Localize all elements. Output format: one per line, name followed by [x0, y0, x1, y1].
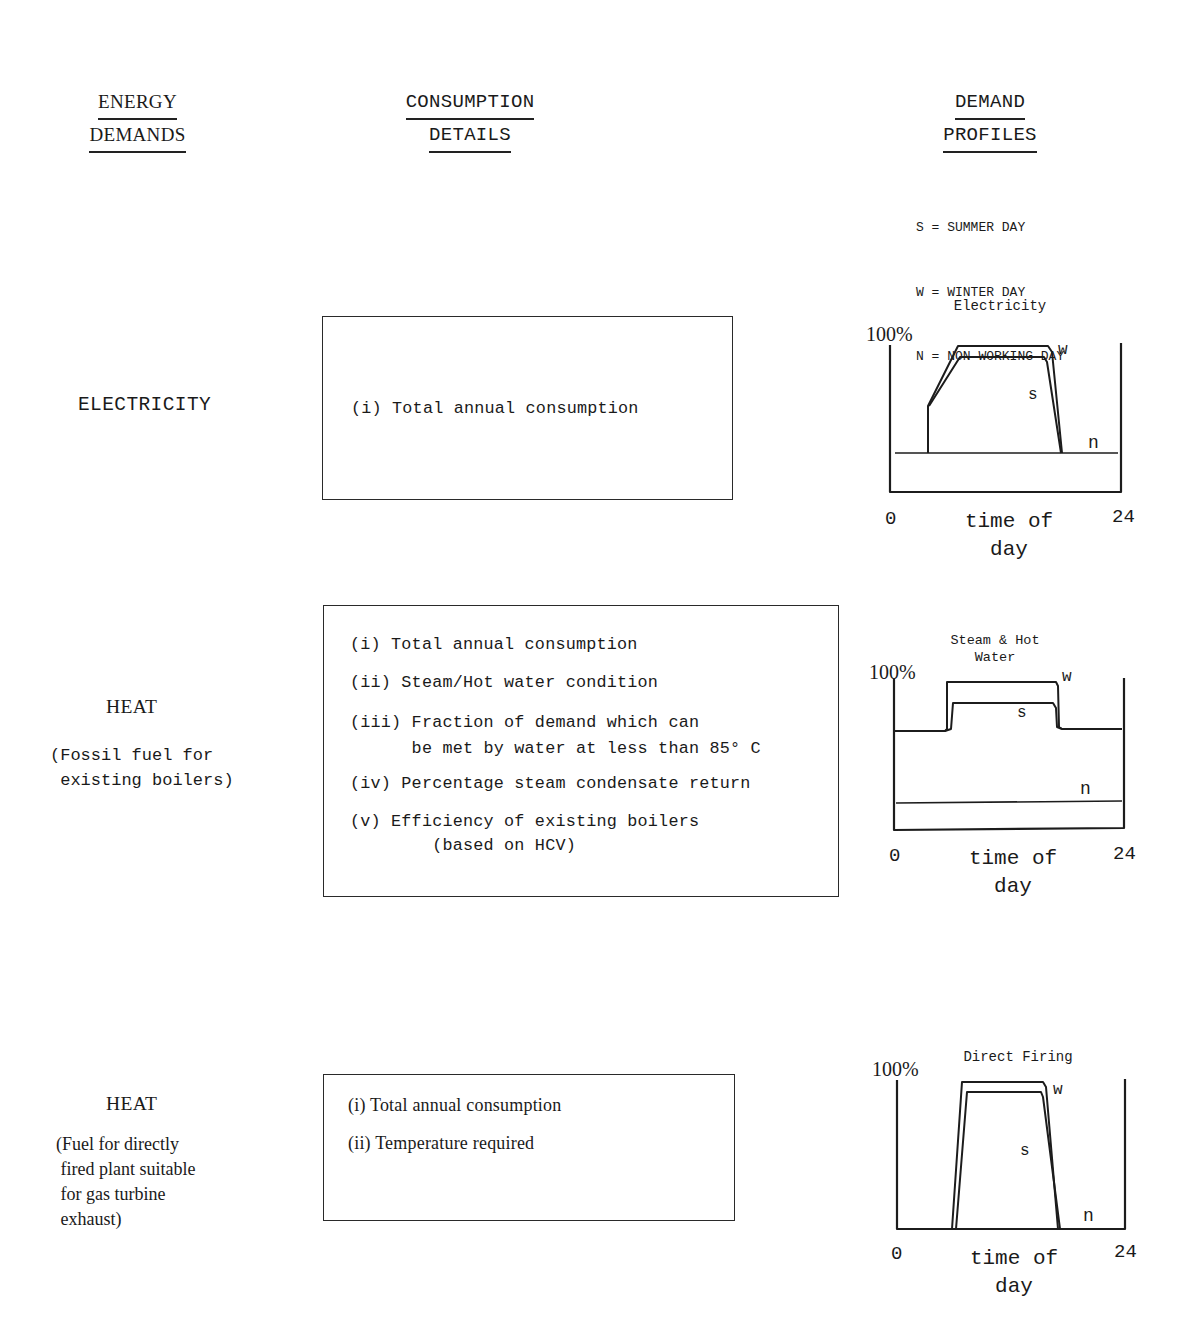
x-min-label: 0: [891, 1243, 902, 1265]
curve-label-n: n: [1083, 1206, 1094, 1226]
x-axis-label: time of day: [949, 1245, 1079, 1301]
curve-w: [952, 1082, 1058, 1229]
chart-direct-firing: [0, 0, 1202, 1336]
curve-s: [956, 1092, 1060, 1229]
curve-label-s: s: [1020, 1142, 1030, 1160]
x-max-label: 24: [1114, 1241, 1137, 1263]
curve-label-w: w: [1053, 1081, 1063, 1099]
